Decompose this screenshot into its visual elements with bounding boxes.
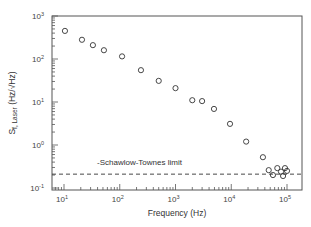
chart: -Schawlow-Townes limit 101102103104105 1… [0, 0, 311, 227]
y-tick-label: 102 [32, 54, 44, 65]
x-axis-label: Frequency (Hz) [148, 208, 207, 218]
data-point [173, 86, 178, 91]
x-tick-label: 103 [168, 194, 180, 205]
y-axis-label: Sf, Laser (Hz/√Hz) [7, 71, 18, 134]
data-point [211, 106, 216, 111]
data-point [227, 121, 232, 126]
data-point [270, 172, 275, 177]
data-point [119, 54, 124, 59]
y-tick-labels: 10-1100101102103 [30, 11, 44, 194]
y-tick-label: 103 [32, 11, 44, 22]
data-point [266, 168, 271, 173]
data-point [90, 43, 95, 48]
x-tick-label: 102 [112, 194, 124, 205]
data-point [156, 78, 161, 83]
data-point [101, 48, 106, 53]
data-points [62, 28, 289, 178]
data-point [199, 98, 204, 103]
x-tick-label: 105 [279, 194, 291, 205]
data-point [62, 28, 67, 33]
x-tick-label: 101 [56, 194, 68, 205]
data-point [138, 68, 143, 73]
x-tick-labels: 101102103104105 [56, 194, 291, 205]
y-tick-label: 10-1 [30, 183, 44, 194]
y-tick-label: 100 [32, 140, 44, 151]
schawlow-townes-limit-label: -Schawlow-Townes limit [97, 158, 183, 167]
data-point [190, 98, 195, 103]
x-tick-label: 104 [223, 194, 235, 205]
data-point [260, 155, 265, 160]
data-point [79, 37, 84, 42]
y-tick-label: 101 [32, 97, 44, 108]
data-point [244, 139, 249, 144]
